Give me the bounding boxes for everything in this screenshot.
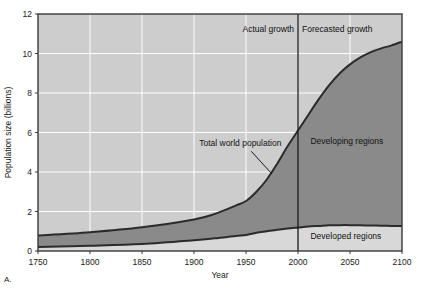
ytick-label-4: 4: [27, 167, 32, 177]
xtick-label-2050: 2050: [341, 257, 360, 267]
ytick-label-6: 6: [27, 128, 32, 138]
xtick-label-1800: 1800: [81, 257, 100, 267]
annotation-total-world-population: Total world population: [199, 138, 281, 148]
figure-container: Actual growthForecasted growth1750180018…: [0, 0, 424, 288]
ytick-label-10: 10: [23, 49, 33, 59]
label-actual-growth: Actual growth: [243, 24, 295, 34]
annotation-developing-regions: Developing regions: [310, 136, 383, 146]
xtick-label-1900: 1900: [185, 257, 204, 267]
ytick-label-12: 12: [23, 9, 33, 19]
xtick-label-1750: 1750: [29, 257, 48, 267]
xtick-label-1950: 1950: [237, 257, 256, 267]
population-growth-area-chart: Actual growthForecasted growth1750180018…: [0, 0, 424, 288]
ytick-label-8: 8: [27, 88, 32, 98]
xtick-label-2100: 2100: [393, 257, 412, 267]
annotation-developed-regions: Developed regions: [310, 231, 381, 241]
label-forecasted-growth: Forecasted growth: [302, 24, 373, 34]
ytick-label-0: 0: [27, 246, 32, 256]
ytick-label-2: 2: [27, 207, 32, 217]
panel-letter: A.: [4, 275, 12, 284]
xtick-label-1850: 1850: [133, 257, 152, 267]
y-axis-title: Population size (billions): [3, 87, 13, 179]
x-axis-title: Year: [211, 270, 228, 280]
xtick-label-2000: 2000: [289, 257, 308, 267]
